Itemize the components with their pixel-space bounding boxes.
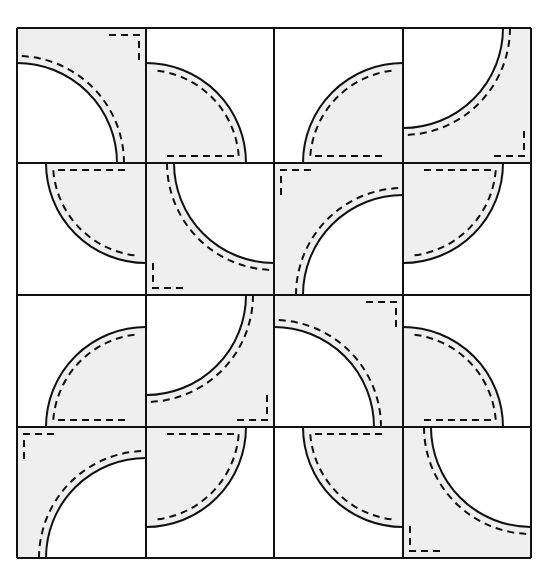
- quilt-cell-r0-c0-curved-l: [17, 28, 146, 163]
- quilt-diagram: [0, 0, 551, 570]
- quilt-cell-r1-c3-quarter-disk: [403, 163, 503, 263]
- gray-quarter-disk: [46, 163, 146, 263]
- quilt-cell-r0-c1-quarter-disk: [146, 63, 246, 163]
- gray-quarter-disk: [146, 427, 246, 527]
- quilt-cell-r1-c2-curved-l: [274, 163, 403, 295]
- gray-quarter-disk: [403, 163, 503, 263]
- quilt-cell-r3-c0-curved-l: [17, 427, 146, 558]
- gray-quarter-disk: [146, 63, 246, 163]
- quilt-cell-r3-c3-curved-l: [403, 427, 531, 558]
- gray-quarter-disk: [303, 63, 403, 163]
- quilt-cell-r2-c0-quarter-disk: [46, 327, 146, 427]
- quilt-cell-r3-c1-quarter-disk: [146, 427, 246, 527]
- gray-quarter-disk: [403, 327, 503, 427]
- quilt-cell-r0-c3-curved-l: [403, 28, 531, 163]
- quilt-cell-r3-c2-quarter-disk: [303, 427, 403, 527]
- quilt-cell-r0-c2-quarter-disk: [303, 63, 403, 163]
- gray-quarter-disk: [46, 327, 146, 427]
- quilt-cell-r2-c2-curved-l: [274, 295, 403, 427]
- quilt-cell-r2-c3-quarter-disk: [403, 327, 503, 427]
- gray-quarter-disk: [303, 427, 403, 527]
- quilt-cell-r1-c1-curved-l: [146, 163, 274, 295]
- quilt-cell-r2-c1-curved-l: [146, 295, 274, 427]
- quilt-cell-r1-c0-quarter-disk: [46, 163, 146, 263]
